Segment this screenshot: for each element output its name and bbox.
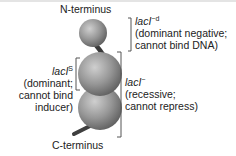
annotation-line: inducer) — [19, 101, 73, 113]
annotation-line: (dominant negative; — [135, 27, 227, 39]
allele-superscript: S — [68, 65, 73, 72]
c-terminal-tail — [74, 126, 90, 134]
gene-name: lacI — [52, 65, 68, 77]
annotation-laci-s: lacIS (dominant; cannot bind inducer) — [19, 65, 73, 113]
core-domain-upper — [78, 52, 122, 96]
annotation-line: cannot bind — [19, 89, 73, 101]
annotation-line: (recessive; — [125, 88, 198, 100]
allele-superscript: −d — [151, 15, 159, 22]
n-terminus-label: N-terminus — [60, 3, 111, 15]
annotation-laci-d: lacI−d (dominant negative; cannot bind D… — [135, 15, 227, 51]
bracket-laci-d — [128, 18, 131, 51]
annotation-line: cannot repress) — [125, 100, 198, 112]
annotation-line: cannot bind DNA) — [135, 39, 227, 51]
n-terminal-dna-binding-domain — [79, 19, 107, 47]
annotation-laci-minus: lacI− (recessive; cannot repress) — [125, 76, 198, 112]
allele-superscript: − — [141, 76, 145, 83]
c-terminus-label: C-terminus — [52, 139, 103, 151]
gene-name: lacI — [125, 76, 141, 88]
gene-name: lacI — [135, 15, 151, 27]
annotation-line: (dominant; — [19, 77, 73, 89]
